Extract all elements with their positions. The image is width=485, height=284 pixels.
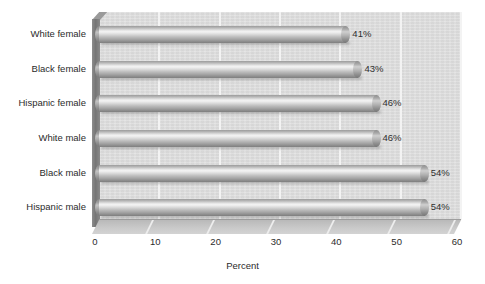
x-tick-label: 60 xyxy=(445,236,469,248)
x-tick-label: 40 xyxy=(324,236,348,248)
bar-end-cap xyxy=(372,130,381,147)
value-label: 54% xyxy=(431,201,450,213)
bar-chart: White female41%Black female43%Hispanic f… xyxy=(0,0,485,284)
x-tick-label: 10 xyxy=(143,236,167,248)
x-tick-label: 20 xyxy=(204,236,228,248)
bar[interactable] xyxy=(99,95,377,112)
bar-body xyxy=(99,26,346,43)
bar-body xyxy=(99,199,425,216)
category-label: Hispanic male xyxy=(0,201,86,213)
bar[interactable] xyxy=(99,130,377,147)
x-tick-label: 30 xyxy=(264,236,288,248)
bar[interactable] xyxy=(99,199,425,216)
x-axis-title: Percent xyxy=(0,260,485,272)
x-tick-label: 0 xyxy=(83,236,107,248)
value-label: 43% xyxy=(364,63,383,75)
category-label: Black male xyxy=(0,167,86,179)
value-label: 46% xyxy=(383,132,402,144)
value-label: 41% xyxy=(352,28,371,40)
bar-end-cap xyxy=(420,165,429,182)
category-label: Hispanic female xyxy=(0,97,86,109)
category-label: White female xyxy=(0,28,86,40)
category-label: Black female xyxy=(0,63,86,75)
bar-end-cap xyxy=(420,199,429,216)
category-label: White male xyxy=(0,132,86,144)
bar[interactable] xyxy=(99,26,346,43)
bar-series: White female41%Black female43%Hispanic f… xyxy=(0,0,485,284)
value-label: 46% xyxy=(383,97,402,109)
bar-body xyxy=(99,165,425,182)
bar-end-cap xyxy=(372,95,381,112)
bar-body xyxy=(99,61,358,78)
bar-body xyxy=(99,95,377,112)
bar[interactable] xyxy=(99,165,425,182)
value-label: 54% xyxy=(431,167,450,179)
bar-body xyxy=(99,130,377,147)
bar[interactable] xyxy=(99,61,358,78)
x-tick-label: 50 xyxy=(385,236,409,248)
